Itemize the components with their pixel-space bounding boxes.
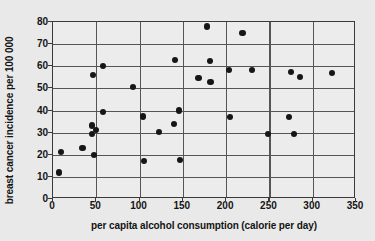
data-point (140, 113, 146, 119)
gridline-vertical (313, 22, 314, 197)
data-point (204, 23, 210, 29)
data-point (100, 109, 106, 115)
gridline-vertical (183, 22, 184, 197)
gridline-horizontal (53, 177, 354, 178)
data-point (291, 131, 297, 137)
data-point (239, 30, 245, 36)
gridline-vertical (140, 22, 141, 197)
y-tick-label: 30 (20, 126, 48, 137)
data-point (288, 69, 294, 75)
gridline-horizontal (53, 66, 354, 67)
x-tick-mark (139, 198, 140, 202)
data-point (156, 129, 162, 135)
y-tick-label: 20 (20, 148, 48, 159)
data-point (249, 67, 255, 73)
gridline-horizontal (53, 155, 354, 156)
y-tick-label: 40 (20, 104, 48, 115)
gridline-horizontal (53, 111, 354, 112)
data-point (56, 169, 62, 175)
data-point (177, 157, 183, 163)
y-tick-mark (48, 198, 52, 199)
data-point (171, 121, 177, 127)
data-point (265, 131, 271, 137)
data-point (286, 114, 292, 120)
data-point (297, 74, 303, 80)
x-tick-mark (95, 198, 96, 202)
data-point (79, 145, 85, 151)
gridline-horizontal (53, 133, 354, 134)
y-tick-label: 50 (20, 82, 48, 93)
data-point (141, 158, 147, 164)
data-point (227, 114, 233, 120)
y-tick-label: 0 (20, 193, 48, 204)
y-tick-label: 70 (20, 38, 48, 49)
scatter-chart-figure: breast cancer incidence per 100 000 per … (0, 0, 375, 241)
y-axis-title: breast cancer incidence per 100 000 (0, 0, 18, 241)
gridline-vertical (269, 22, 270, 197)
data-point (195, 75, 201, 81)
gridline-vertical (226, 22, 227, 197)
data-point (58, 149, 64, 155)
data-point (172, 57, 178, 63)
gridline-vertical (96, 22, 97, 197)
y-tick-label: 10 (20, 170, 48, 181)
data-point (91, 152, 97, 158)
x-tick-mark (225, 198, 226, 202)
x-tick-mark (355, 198, 356, 202)
x-tick-mark (182, 198, 183, 202)
data-point (100, 63, 106, 69)
y-tick-label: 60 (20, 60, 48, 71)
data-point (176, 107, 182, 113)
plot-area (52, 21, 355, 198)
gridline-horizontal (53, 44, 354, 45)
x-tick-mark (52, 198, 53, 202)
data-point (207, 79, 213, 85)
x-tick-mark (312, 198, 313, 202)
gridline-horizontal (53, 88, 354, 89)
data-point (329, 70, 335, 76)
y-tick-label: 80 (20, 16, 48, 27)
x-tick-mark (268, 198, 269, 202)
data-point (207, 58, 213, 64)
data-point (90, 72, 96, 78)
x-axis-title: per capita alcohol consumption (calorie … (52, 220, 356, 231)
data-point (226, 67, 232, 73)
